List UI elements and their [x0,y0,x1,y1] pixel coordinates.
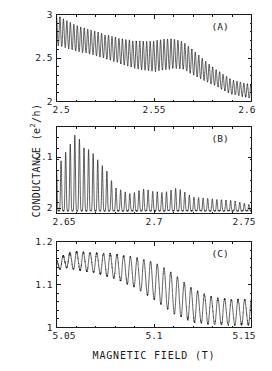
x-tick-label: 2.55 [131,104,177,115]
y-tick-label: 1.2 [13,236,53,247]
x-tick-label: 2.7 [131,216,177,227]
conductance-figure: CONDUCTANCE (e2/h) MAGNETIC FIELD (T) 2.… [0,0,272,371]
x-tick-label: 2.75 [210,216,256,227]
x-tick-label: 5.1 [131,330,177,341]
x-tick-label: 5.15 [210,330,256,341]
data-trace [57,135,252,211]
y-tick-label: 1.1 [13,279,53,290]
y-tick-label: 1 [13,322,53,333]
x-tick-label: 2.6 [210,104,256,115]
y-axis-label-exponent: 2 [29,123,37,128]
y-tick-label: 2 [13,96,53,107]
y-tick-label: 2.1 [13,151,53,162]
data-trace [57,251,252,326]
x-axis-label: MAGNETIC FIELD (T) [56,350,252,361]
panel-tag: (B) [212,133,229,144]
y-tick-label: 2.5 [13,52,53,63]
panel-tag: (C) [212,248,229,259]
panel-tag: (A) [212,21,229,32]
x-tick-label: 5.05 [53,330,99,341]
y-tick-label: 2 [13,202,53,213]
x-tick-label: 2.65 [53,216,99,227]
y-tick-label: 3 [13,9,53,20]
x-tick-label: 2.5 [53,104,99,115]
